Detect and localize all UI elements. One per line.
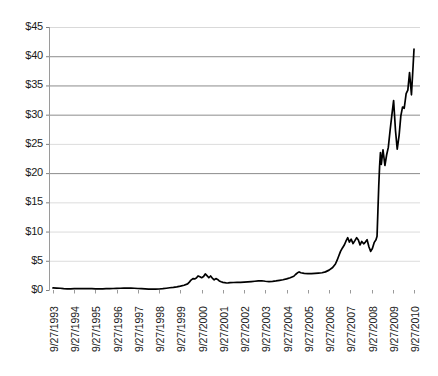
y-axis-tick-label: $45	[3, 21, 43, 32]
y-axis-tick-label: $10	[3, 226, 43, 237]
y-axis-tick-label: $30	[3, 109, 43, 120]
x-axis-tick-label: 9/27/1995	[91, 306, 101, 352]
x-axis-tick-marks	[54, 290, 415, 294]
x-axis-tick-label: 9/27/2000	[198, 306, 208, 352]
y-axis-tick-label: $0	[3, 284, 43, 295]
y-axis-tick-label: $20	[3, 167, 43, 178]
x-axis-tick-label: 9/27/2002	[240, 306, 250, 352]
gridlines	[50, 28, 421, 262]
x-axis-tick-label: 9/27/2009	[389, 306, 399, 352]
y-axis-tick-label: $15	[3, 196, 43, 207]
x-axis-tick-label: 9/27/2006	[325, 306, 335, 352]
x-axis-tick-label: 9/27/1998	[155, 306, 165, 352]
x-axis-tick-label: 9/27/2003	[261, 306, 271, 352]
x-axis-tick-label: 9/27/2004	[283, 306, 293, 352]
x-axis-tick-label: 9/27/2007	[346, 306, 356, 352]
x-axis-tick-label: 9/27/1997	[134, 306, 144, 352]
price-series-line	[53, 49, 414, 289]
x-axis-tick-label: 9/27/1999	[176, 306, 186, 352]
y-axis-tick-label: $40	[3, 50, 43, 61]
y-axis-tick-label: $35	[3, 79, 43, 90]
x-axis-tick-label: 9/27/1996	[113, 306, 123, 352]
x-axis-tick-label: 9/27/2008	[368, 306, 378, 352]
x-axis-tick-label: 9/27/2005	[304, 306, 314, 352]
stock-price-line-chart: $0$5$10$15$20$25$30$35$40$45 9/27/19939/…	[0, 0, 438, 376]
x-axis-tick-label: 9/27/1994	[70, 306, 80, 352]
y-axis-tick-label: $5	[3, 255, 43, 266]
x-axis-tick-label: 9/27/2010	[410, 306, 420, 352]
y-axis-tick-label: $25	[3, 138, 43, 149]
y-axis-tick-marks	[46, 28, 50, 291]
x-axis-tick-label: 9/27/1993	[49, 306, 59, 352]
x-axis-tick-label: 9/27/2001	[219, 306, 229, 352]
